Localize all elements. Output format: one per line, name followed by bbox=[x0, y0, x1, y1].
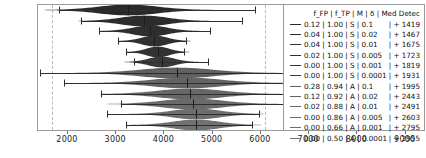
error-bar bbox=[126, 125, 252, 126]
legend-label: 0.04 | 1.00 | S | 0.01 bbox=[304, 40, 378, 49]
legend-label: 0.00 | 1.00 | S | 0.001 bbox=[304, 61, 382, 70]
legend-label: 0.00 | 0.50 | A | 0.0001 bbox=[304, 133, 387, 142]
legend-item[interactable]: 0.00 | 1.00 | S | 0.0001| + 1931 bbox=[284, 70, 424, 80]
median-tick bbox=[196, 120, 197, 129]
error-cap-low bbox=[101, 90, 102, 97]
error-cap-high bbox=[186, 38, 187, 45]
median-tick bbox=[144, 16, 145, 25]
legend-item[interactable]: 0.02 | 1.00 | S | 0.005| + 1723 bbox=[284, 50, 424, 60]
error-bar bbox=[126, 52, 183, 53]
legend-item[interactable]: 0.00 | 0.50 | A | 0.0001| + 2955 bbox=[284, 132, 424, 142]
error-cap-low bbox=[64, 80, 65, 87]
legend-med-detec: | + 1931 bbox=[389, 71, 420, 80]
x-tick-label: 6000 bbox=[249, 135, 270, 144]
legend-label: 0.00 | 0.86 | A | 0.005 bbox=[304, 112, 382, 121]
legend-med-detec: | + 1819 bbox=[389, 61, 420, 70]
legend-med-detec: | + 1675 bbox=[389, 40, 420, 49]
error-cap-high bbox=[259, 111, 260, 118]
legend-item[interactable]: 0.00 | 1.00 | S | 0.001| + 1819 bbox=[284, 60, 424, 70]
error-cap-low bbox=[126, 48, 127, 55]
legend-item[interactable]: 0.00 | 0.86 | A | 0.005| + 2603 bbox=[284, 112, 424, 122]
legend-label: 0.28 | 0.94 | A | 0.1 bbox=[304, 81, 373, 90]
x-tick bbox=[260, 131, 261, 134]
violin-plot-figure: 20003000400050006000700080009000 f_FP | … bbox=[0, 0, 426, 158]
error-cap-low bbox=[81, 17, 82, 24]
legend-item[interactable]: 0.02 | 0.88 | A | 0.01| + 2491 bbox=[284, 101, 424, 111]
legend-swatch bbox=[290, 55, 301, 56]
error-cap-high bbox=[242, 17, 243, 24]
error-cap-low bbox=[118, 38, 119, 45]
error-cap-low bbox=[59, 7, 60, 14]
median-tick bbox=[193, 99, 194, 108]
legend-label: 0.02 | 1.00 | S | 0.005 bbox=[304, 50, 382, 59]
legend-swatch bbox=[290, 106, 301, 107]
x-tick bbox=[115, 131, 116, 134]
legend-med-detec: | + 2443 bbox=[389, 92, 420, 101]
error-cap-low bbox=[40, 69, 41, 76]
legend-swatch bbox=[290, 138, 301, 139]
legend-item[interactable]: 0.28 | 0.94 | A | 0.1| + 1995 bbox=[284, 81, 424, 91]
error-cap-high bbox=[184, 48, 185, 55]
legend-item[interactable]: 0.04 | 1.00 | S | 0.01| + 1675 bbox=[284, 39, 424, 49]
legend-header: f_FP | f_TP | M | δ | Med Detec bbox=[284, 9, 420, 18]
legend-swatch bbox=[290, 127, 301, 128]
legend-med-detec: | + 1723 bbox=[389, 50, 420, 59]
legend-item[interactable]: 0.00 | 0.66 | A | 0.001| + 2795 bbox=[284, 122, 424, 132]
error-cap-low bbox=[121, 100, 122, 107]
legend-med-detec: | + 2603 bbox=[389, 112, 420, 121]
legend-item[interactable]: 0.04 | 1.00 | S | 0.02| + 1467 bbox=[284, 29, 424, 39]
legend-label: 0.12 | 0.92 | A | 0.02 bbox=[304, 92, 378, 101]
error-cap-high bbox=[208, 59, 209, 66]
x-tick-label: 2000 bbox=[56, 135, 77, 144]
legend-label: 0.00 | 1.00 | S | 0.0001 bbox=[304, 71, 387, 80]
median-tick bbox=[154, 37, 155, 46]
x-tick-label: 3000 bbox=[105, 135, 126, 144]
legend-med-detec: | + 2795 bbox=[389, 123, 420, 132]
error-bar bbox=[101, 94, 308, 95]
legend-med-detec: | + 1419 bbox=[389, 19, 420, 28]
legend-item[interactable]: 0.12 | 0.92 | A | 0.02| + 2443 bbox=[284, 91, 424, 101]
median-tick bbox=[150, 27, 151, 36]
error-bar bbox=[59, 10, 255, 11]
error-cap-high bbox=[210, 28, 211, 35]
legend-med-detec: | + 1995 bbox=[389, 81, 420, 90]
median-tick bbox=[158, 47, 159, 56]
legend-med-detec: | + 2955 bbox=[389, 133, 420, 142]
error-cap-low bbox=[99, 28, 100, 35]
error-cap-low bbox=[107, 111, 108, 118]
error-cap-low bbox=[134, 59, 135, 66]
legend-swatch bbox=[290, 96, 301, 97]
median-tick bbox=[177, 68, 178, 77]
error-cap-high bbox=[252, 121, 253, 128]
error-bar bbox=[40, 73, 309, 74]
error-bar bbox=[99, 31, 210, 32]
legend-med-detec: | + 2491 bbox=[389, 102, 420, 111]
error-bar bbox=[121, 104, 310, 105]
legend-swatch bbox=[290, 117, 301, 118]
median-tick bbox=[162, 58, 163, 67]
legend-label: 0.12 | 1.00 | S | 0.1 bbox=[304, 19, 373, 28]
legend-label: 0.00 | 0.66 | A | 0.001 bbox=[304, 123, 382, 132]
median-tick bbox=[190, 89, 191, 98]
legend-item[interactable]: 0.12 | 1.00 | S | 0.1| + 1419 bbox=[284, 19, 424, 29]
error-bar bbox=[81, 21, 242, 22]
x-tick-label: 4000 bbox=[153, 135, 174, 144]
legend: f_FP | f_TP | M | δ | Med Detec 0.12 | 1… bbox=[283, 4, 425, 131]
x-tick bbox=[67, 131, 68, 134]
legend-swatch bbox=[290, 34, 301, 35]
x-tick-label: 5000 bbox=[201, 135, 222, 144]
x-tick bbox=[163, 131, 164, 134]
error-bar bbox=[118, 41, 186, 42]
median-tick bbox=[128, 6, 129, 15]
error-bar bbox=[107, 114, 259, 115]
error-cap-low bbox=[126, 121, 127, 128]
median-tick bbox=[187, 79, 188, 88]
legend-swatch bbox=[290, 86, 301, 87]
legend-swatch bbox=[290, 44, 301, 45]
median-tick bbox=[196, 110, 197, 119]
legend-swatch bbox=[290, 24, 301, 25]
error-cap-high bbox=[255, 7, 256, 14]
x-tick bbox=[212, 131, 213, 134]
legend-label: 0.02 | 0.88 | A | 0.01 bbox=[304, 102, 378, 111]
legend-swatch bbox=[290, 75, 301, 76]
